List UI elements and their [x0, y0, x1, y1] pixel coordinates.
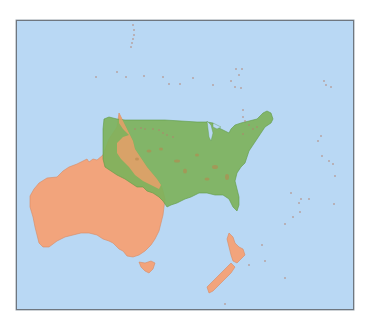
terrain-mark: [225, 174, 229, 180]
island-dot: [325, 84, 327, 86]
island-dot: [179, 83, 181, 85]
island-dot: [162, 132, 164, 134]
island-dot: [212, 84, 214, 86]
island-dot: [308, 198, 310, 200]
terrain-mark: [159, 148, 163, 151]
island-dot: [284, 223, 286, 225]
terrain-mark: [135, 158, 139, 161]
island-dot: [242, 133, 244, 135]
map-figure: [0, 0, 367, 321]
island-dot: [252, 128, 254, 130]
island-dot: [172, 136, 174, 138]
island-dot: [134, 128, 136, 130]
island-dot: [261, 244, 263, 246]
island-dot: [298, 202, 300, 204]
terrain-mark: [183, 169, 187, 174]
island-dot: [334, 175, 336, 177]
island-dot: [131, 42, 133, 44]
island-dot: [248, 124, 250, 126]
island-dot: [284, 277, 286, 279]
island-dot: [235, 68, 237, 70]
terrain-mark: [147, 150, 152, 153]
island-dot: [242, 109, 244, 111]
island-dot: [234, 86, 236, 88]
island-dot: [321, 155, 323, 157]
island-dot: [244, 120, 246, 122]
island-dot: [332, 163, 334, 165]
island-dot: [158, 129, 160, 131]
island-dot: [299, 211, 301, 213]
island-dot: [95, 76, 97, 78]
island-dot: [238, 74, 240, 76]
island-dot: [166, 134, 168, 136]
terrain-mark: [174, 160, 180, 163]
terrain-mark: [212, 165, 218, 169]
island-dot: [143, 75, 145, 77]
island-dot: [224, 303, 226, 305]
island-dot: [330, 86, 332, 88]
island-dot: [300, 198, 302, 200]
island-dot: [133, 29, 135, 31]
island-dot: [256, 126, 258, 128]
island-dot: [132, 24, 134, 26]
island-dot: [125, 76, 127, 78]
island-dot: [168, 83, 170, 85]
island-dot: [264, 260, 266, 262]
island-dot: [242, 116, 244, 118]
island-dot: [292, 216, 294, 218]
terrain-mark: [205, 178, 210, 181]
island-dot: [192, 77, 194, 79]
island-dot: [248, 264, 250, 266]
island-dot: [333, 203, 335, 205]
island-dot: [116, 71, 118, 73]
island-dot: [323, 80, 325, 82]
island-dot: [133, 34, 135, 36]
terrain-mark: [195, 154, 199, 157]
island-dot: [140, 127, 142, 129]
island-dot: [130, 46, 132, 48]
island-dot: [290, 192, 292, 194]
island-dot: [152, 128, 154, 130]
island-dot: [241, 68, 243, 70]
island-dot: [320, 135, 322, 137]
island-dot: [144, 128, 146, 130]
island-dot: [328, 160, 330, 162]
island-dot: [317, 140, 319, 142]
island-dot: [230, 80, 232, 82]
island-dot: [240, 87, 242, 89]
island-dot: [132, 38, 134, 40]
island-dot: [162, 76, 164, 78]
map-canvas: [17, 21, 353, 309]
map-frame: [16, 20, 354, 310]
